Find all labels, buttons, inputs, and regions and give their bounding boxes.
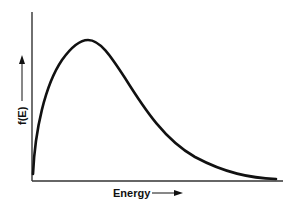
distribution-curve <box>33 40 276 179</box>
energy-distribution-chart: f(E) Energy <box>0 0 294 210</box>
x-axis-label-group: Energy <box>113 187 183 199</box>
axes <box>32 12 283 181</box>
y-axis-label-group: f(E) <box>16 55 28 125</box>
arrow-right-icon <box>174 190 183 196</box>
y-axis-label: f(E) <box>16 106 28 125</box>
arrow-up-icon <box>19 55 25 64</box>
x-axis-label: Energy <box>113 187 151 199</box>
